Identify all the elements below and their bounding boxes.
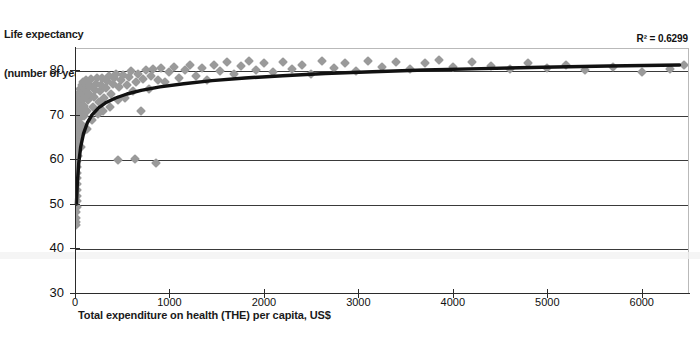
y-tick-label: 50 [24,196,64,211]
x-tick-label: 2000 [234,296,294,308]
life-expectancy-scatter-chart: Life expectancy (number of years) R² = 0… [0,0,700,340]
y-axis-line [75,47,76,294]
x-tick-label: 6000 [612,296,672,308]
x-axis-line [75,293,690,294]
y-axis-title-line-1: Life expectancy [4,28,94,41]
x-tick-label: 1000 [139,296,199,308]
y-tick [70,248,80,249]
scan-artifact [0,252,700,259]
r-squared-annotation: R² = 0.6299 [637,33,688,44]
y-tick-label: 40 [24,240,64,255]
y-tick [70,70,80,71]
y-tick-label: 80 [24,62,64,77]
trendline-path [76,65,679,204]
y-tick-label: 60 [24,151,64,166]
y-tick [70,115,80,116]
x-tick-label: 5000 [517,296,577,308]
y-tick [70,159,80,160]
x-axis-title: Total expenditure on health (THE) per ca… [78,309,331,321]
y-tick-label: 70 [24,107,64,122]
x-tick-label: 3000 [328,296,388,308]
x-tick-label: 4000 [423,296,483,308]
x-tick-label: 0 [45,296,105,308]
y-tick [70,204,80,205]
